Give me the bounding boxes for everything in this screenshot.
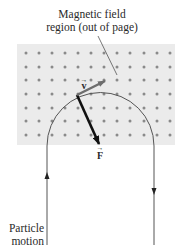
title-line-1: Magnetic field <box>58 8 126 21</box>
field-dot <box>38 134 41 137</box>
field-dot <box>143 120 146 123</box>
down-arrow-icon <box>152 188 157 195</box>
field-dot <box>51 52 54 55</box>
field-dot <box>25 52 28 55</box>
field-dot <box>116 66 119 69</box>
field-dot <box>25 134 28 137</box>
field-dot <box>156 93 159 96</box>
field-dot <box>38 107 41 110</box>
field-dot <box>103 66 106 69</box>
field-dot <box>143 134 146 137</box>
field-dot <box>143 93 146 96</box>
field-dot <box>156 120 159 123</box>
field-dot <box>169 107 172 110</box>
field-dot <box>64 79 67 82</box>
field-dot <box>103 52 106 55</box>
field-dot <box>25 107 28 110</box>
field-dot <box>156 66 159 69</box>
field-dot <box>90 79 93 82</box>
field-dot <box>169 134 172 137</box>
field-dot <box>77 107 80 110</box>
title-line-2: region (out of page) <box>46 21 138 34</box>
field-dot <box>38 79 41 82</box>
field-dot <box>51 134 54 137</box>
field-dot <box>129 120 132 123</box>
field-dot <box>129 107 132 110</box>
field-dot <box>90 107 93 110</box>
field-dot <box>25 66 28 69</box>
field-dot <box>90 66 93 69</box>
field-dot <box>129 93 132 96</box>
field-dot <box>169 66 172 69</box>
field-dot <box>90 52 93 55</box>
field-dot <box>51 93 54 96</box>
field-dot <box>103 120 106 123</box>
field-dot <box>103 107 106 110</box>
field-dot <box>64 120 67 123</box>
field-dot <box>156 52 159 55</box>
field-dot <box>156 134 159 137</box>
particle-motion-label-line-2: motion <box>11 235 44 247</box>
field-dot <box>116 107 119 110</box>
field-dot <box>116 134 119 137</box>
field-dot <box>169 79 172 82</box>
field-dot <box>143 66 146 69</box>
field-dot <box>64 66 67 69</box>
field-dot <box>77 52 80 55</box>
field-dot <box>116 52 119 55</box>
field-dot <box>51 107 54 110</box>
field-dot <box>25 120 28 123</box>
field-dot <box>38 52 41 55</box>
field-dot <box>90 134 93 137</box>
field-dot <box>64 134 67 137</box>
field-dot <box>143 107 146 110</box>
field-dot <box>103 134 106 137</box>
field-dot <box>77 120 80 123</box>
magnetic-field-diagram: Magnetic field region (out of page) v → … <box>0 0 183 252</box>
particle-motion-label-line-1: Particle <box>9 222 44 234</box>
field-dot <box>64 52 67 55</box>
field-dot <box>38 93 41 96</box>
field-dot <box>156 79 159 82</box>
force-label-arrow: → <box>97 144 104 152</box>
field-dot <box>25 79 28 82</box>
field-dot <box>38 66 41 69</box>
field-dot <box>169 120 172 123</box>
field-dot <box>169 93 172 96</box>
field-dot <box>143 52 146 55</box>
field-dot <box>51 79 54 82</box>
field-dot <box>129 52 132 55</box>
field-dot <box>156 107 159 110</box>
field-dot <box>116 79 119 82</box>
field-dot <box>116 120 119 123</box>
velocity-label-arrow: → <box>81 76 88 84</box>
up-arrow-icon <box>45 172 50 179</box>
field-dot <box>129 134 132 137</box>
field-dot <box>25 93 28 96</box>
field-dot <box>77 79 80 82</box>
field-dot <box>51 66 54 69</box>
field-dot <box>38 120 41 123</box>
field-dot <box>77 134 80 137</box>
field-dot <box>77 66 80 69</box>
field-dot <box>129 66 132 69</box>
field-dot <box>64 93 67 96</box>
field-dot <box>143 79 146 82</box>
field-dot <box>129 79 132 82</box>
field-dot <box>169 52 172 55</box>
